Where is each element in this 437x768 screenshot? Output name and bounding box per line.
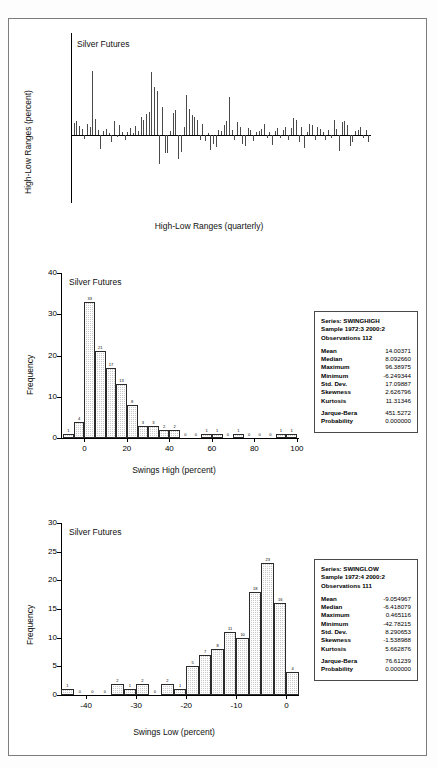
chart1-bar bbox=[296, 120, 297, 135]
chart1-bar bbox=[197, 120, 198, 135]
chart3-bar-count: 2 bbox=[130, 679, 155, 683]
swinglow-stats-row: Skewness-1.538988 bbox=[321, 636, 411, 644]
chart2-bar bbox=[276, 434, 287, 438]
chart1-bar bbox=[312, 125, 313, 135]
swinglow-stats-footer-key: Probability bbox=[321, 665, 353, 673]
chart2-x-ticklabel: 60 bbox=[200, 444, 224, 453]
chart2-y-tick bbox=[57, 356, 61, 357]
chart1-bar bbox=[264, 124, 265, 135]
chart1-bar bbox=[205, 135, 206, 141]
chart2-x-tick bbox=[212, 438, 213, 442]
swinghigh-stats-row-key: Minimum bbox=[321, 372, 348, 380]
chart1-bar bbox=[301, 127, 302, 135]
chart3-x-ticklabel: -20 bbox=[174, 701, 198, 710]
swinglow-stats-row-key: Mean bbox=[321, 595, 337, 603]
swinglow-stats-row: Kurtosis5.662876 bbox=[321, 645, 411, 653]
chart1-bar bbox=[229, 97, 230, 135]
chart3-bar-count: 16 bbox=[268, 598, 293, 602]
chart-swings-high: Silver Futures Frequency Swings High (pe… bbox=[9, 255, 428, 499]
swinglow-stats-row-value: -1.538988 bbox=[383, 636, 411, 644]
chart2-y-axis bbox=[61, 273, 62, 438]
chart3-bar-count: 2 bbox=[105, 679, 130, 683]
chart3-bar bbox=[249, 592, 262, 695]
chart3-x-tick bbox=[86, 695, 87, 699]
swinghigh-stats-row: Kurtosis11.31346 bbox=[321, 397, 411, 405]
chart1-bar bbox=[339, 135, 340, 151]
chart1-bar bbox=[146, 114, 147, 135]
swinghigh-stats-row: Median8.092660 bbox=[321, 355, 411, 363]
chart1-bar bbox=[323, 132, 324, 135]
chart3-x-axis-label: Swings Low (percent) bbox=[49, 727, 299, 737]
chart1-bar bbox=[117, 135, 118, 137]
chart1-bar bbox=[224, 125, 225, 135]
chart1-bar bbox=[248, 128, 249, 135]
chart1-bar bbox=[178, 135, 179, 159]
chart2-y-tick bbox=[57, 314, 61, 315]
swinglow-stats-box: Series: SWINGLOWSample 1972:4 2000:2Obse… bbox=[314, 559, 418, 681]
swinglow-stats-footer-row: Jarque-Bera76.61239 bbox=[321, 657, 411, 665]
chart2-bar bbox=[138, 426, 149, 438]
chart3-bar bbox=[211, 649, 224, 695]
chart1-bar bbox=[130, 128, 131, 135]
chart1-bar bbox=[331, 135, 332, 138]
chart3-y-ticklabel: 5 bbox=[31, 661, 57, 670]
chart2-y-axis-label: Frequency bbox=[25, 355, 35, 395]
chart1-bar bbox=[210, 135, 211, 150]
swinghigh-stats-box: Series: SWINGHIGHSample 1972:3 2000:2Obs… bbox=[314, 311, 418, 433]
swinghigh-stats-header-0: Series: SWINGHIGH bbox=[321, 317, 411, 325]
chart2-bar-count: 21 bbox=[89, 346, 112, 350]
chart2-x-axis bbox=[61, 438, 299, 439]
chart2-bar-count: 8 bbox=[121, 400, 144, 404]
swinghigh-stats-row-value: 96.38975 bbox=[385, 363, 411, 371]
swinghigh-stats-footer-key: Probability bbox=[321, 417, 353, 425]
chart1-bar bbox=[315, 135, 316, 140]
chart3-x-tick bbox=[236, 695, 237, 699]
chart2-y-ticklabel: 30 bbox=[31, 309, 57, 318]
chart1-bar bbox=[216, 135, 217, 147]
chart1-bar bbox=[100, 135, 101, 149]
chart1-bar bbox=[114, 121, 115, 135]
swinghigh-stats-row: Maximum96.38975 bbox=[321, 363, 411, 371]
chart3-x-ticklabel: 0 bbox=[274, 701, 298, 710]
swinglow-stats-footer-value: 76.61239 bbox=[385, 657, 411, 665]
chart1-bar bbox=[106, 129, 107, 135]
swinghigh-stats-header-2: Observations 112 bbox=[321, 334, 411, 342]
chart1-y-axis-label: High-Low Ranges (percent) bbox=[23, 90, 33, 194]
swinghigh-stats-row: Std. Dev.17.09887 bbox=[321, 380, 411, 388]
chart3-x-ticklabel: -40 bbox=[74, 701, 98, 710]
swinghigh-stats-row-key: Std. Dev. bbox=[321, 380, 347, 388]
swinghigh-stats-row-value: 14.00371 bbox=[385, 347, 411, 355]
chart1-bar bbox=[74, 123, 75, 135]
swinghigh-stats-footer-value: 451.5272 bbox=[385, 409, 411, 417]
chart1-bar bbox=[154, 87, 155, 135]
chart1-bar bbox=[87, 124, 88, 135]
chart1-bar bbox=[336, 129, 337, 135]
swinghigh-stats-row-key: Maximum bbox=[321, 363, 350, 371]
chart1-bar bbox=[232, 130, 233, 135]
chart3-y-ticklabel: 30 bbox=[31, 518, 57, 527]
chart1-bar bbox=[141, 117, 142, 135]
chart1-bar bbox=[181, 135, 182, 152]
chart3-bar bbox=[286, 672, 299, 695]
swinglow-stats-row-key: Maximum bbox=[321, 611, 350, 619]
chart2-y-tick bbox=[57, 438, 61, 439]
chart1-bar bbox=[350, 135, 351, 146]
swinglow-stats-row-key: Std. Dev. bbox=[321, 628, 347, 636]
chart1-bar bbox=[143, 120, 144, 135]
chart2-bar bbox=[201, 434, 212, 438]
chart2-bar bbox=[84, 302, 95, 438]
chart1-x-axis-label: High-Low Ranges (quarterly) bbox=[69, 221, 349, 231]
chart1-bar bbox=[267, 135, 268, 138]
chart3-bar bbox=[261, 563, 274, 695]
chart1-bar bbox=[90, 127, 91, 135]
chart1-bar bbox=[159, 135, 160, 164]
chart2-bar bbox=[116, 384, 127, 438]
chart1-bar bbox=[125, 135, 126, 140]
chart1-bar bbox=[192, 115, 193, 135]
swinghigh-stats-row-key: Skewness bbox=[321, 388, 351, 396]
chart1-bar bbox=[240, 127, 241, 135]
chart3-bar-count: 11 bbox=[218, 627, 243, 631]
chart2-x-tick bbox=[127, 438, 128, 442]
chart2-x-axis-label: Swings High (percent) bbox=[49, 465, 299, 475]
swinghigh-stats-row: Minimum-6.249344 bbox=[321, 372, 411, 380]
